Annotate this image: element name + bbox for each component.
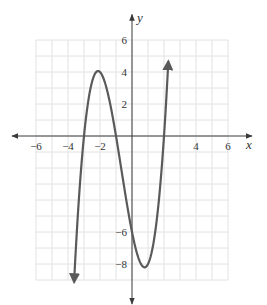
x-tick-label: −6 [30, 140, 42, 152]
x-tick-label: 6 [225, 140, 231, 152]
axes [12, 14, 252, 304]
y-tick-label: −6 [115, 226, 127, 238]
y-tick-label: −8 [115, 258, 127, 270]
x-tick-label: 4 [193, 140, 199, 152]
cubic-function-graph: xy−6−4−246642−6−8 [0, 0, 267, 305]
function-curve [74, 62, 168, 283]
x-tick-label: −2 [94, 140, 106, 152]
y-axis-label: y [135, 10, 143, 25]
curves [74, 62, 168, 283]
x-axis-label: x [245, 137, 252, 152]
tick-labels: xy−6−4−246642−6−8 [30, 10, 252, 270]
y-tick-label: 4 [122, 66, 128, 78]
y-tick-label: 6 [122, 34, 128, 46]
x-tick-label: −4 [62, 140, 74, 152]
y-tick-label: 2 [122, 98, 128, 110]
